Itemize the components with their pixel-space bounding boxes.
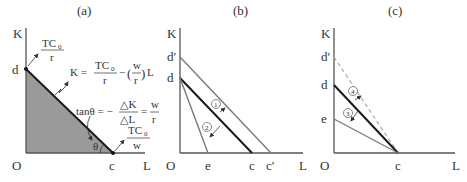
eq-w: w bbox=[133, 59, 141, 71]
point-c-dot bbox=[111, 151, 115, 155]
line-d-prime-c-prime bbox=[180, 57, 271, 153]
panel-c-title: (c) bbox=[388, 3, 402, 18]
point-d-label: d bbox=[321, 77, 328, 92]
arrow-c-icon bbox=[115, 140, 124, 151]
tan-r: r bbox=[152, 113, 156, 125]
marker-2-label: 2 bbox=[205, 124, 209, 132]
zigzag-arrow-icon bbox=[55, 82, 68, 95]
line-d-c bbox=[334, 85, 398, 153]
point-c-label: c bbox=[249, 158, 255, 173]
frac-c-den: w bbox=[133, 139, 141, 151]
panel-b-title: (b) bbox=[233, 3, 248, 18]
point-d-dot bbox=[24, 67, 28, 71]
paren-close: ) bbox=[141, 66, 145, 81]
eq-frac-den: r bbox=[103, 74, 107, 86]
axis-l-label: L bbox=[143, 158, 151, 173]
isocost-diagram: (a) K d O c L TC 0 r K = TC 0 r − ( w r … bbox=[0, 0, 467, 182]
marker-4-label: 4 bbox=[351, 88, 355, 96]
eq-minus: − bbox=[119, 66, 125, 78]
axis-l-label: L bbox=[452, 158, 460, 173]
point-d-label: d bbox=[12, 62, 19, 77]
point-c-prime-label: c′ bbox=[266, 158, 275, 173]
panel-a-title: (a) bbox=[77, 3, 91, 18]
frac-d-num: TC bbox=[42, 37, 56, 49]
frac-c-sub: 0 bbox=[144, 130, 148, 138]
eq-frac-sub: 0 bbox=[111, 65, 115, 73]
axis-k-label: K bbox=[167, 26, 177, 41]
line-d-c bbox=[180, 78, 252, 153]
origin-label: O bbox=[166, 158, 175, 173]
line-e-c bbox=[334, 119, 398, 153]
point-e-label: e bbox=[205, 158, 211, 173]
panel-c: (c) 4 3 K d′ d e O c L bbox=[320, 3, 460, 173]
point-d-label: d bbox=[167, 70, 174, 85]
panel-a: (a) K d O c L TC 0 r K = TC 0 r − ( w r … bbox=[12, 3, 159, 173]
eq-L: L bbox=[147, 66, 154, 78]
point-c-label: c bbox=[109, 158, 115, 173]
paren-open: ( bbox=[127, 66, 131, 81]
tan-num: △K bbox=[120, 98, 136, 110]
point-c-label: c bbox=[395, 158, 401, 173]
arrow-1-icon bbox=[220, 108, 225, 112]
origin-label: O bbox=[320, 158, 329, 173]
arrow-d-icon bbox=[28, 54, 38, 66]
axis-k-label: K bbox=[13, 26, 23, 41]
axis-l-label: L bbox=[299, 158, 307, 173]
frac-c-num: TC bbox=[128, 124, 142, 136]
axis-k-label: K bbox=[321, 26, 331, 41]
frac-d-den: r bbox=[50, 51, 54, 63]
eq-lhs: K = bbox=[70, 66, 87, 78]
line-d-e bbox=[180, 78, 208, 153]
tan-lhs: tanθ = − bbox=[76, 105, 113, 117]
tan-w: w bbox=[151, 98, 159, 110]
panel-b: (b) 1 2 K d′ d O e c c′ L bbox=[166, 3, 307, 173]
tan-eq: = bbox=[141, 105, 147, 117]
marker-1-label: 1 bbox=[214, 101, 218, 109]
origin-label: O bbox=[12, 158, 21, 173]
point-d-prime-label: d′ bbox=[167, 49, 177, 64]
arrow-4-icon bbox=[355, 96, 361, 100]
line-d-prime-c-dashed bbox=[334, 57, 398, 153]
eq-frac-num: TC bbox=[95, 59, 109, 71]
point-d-prime-label: d′ bbox=[321, 49, 331, 64]
marker-3-label: 3 bbox=[346, 110, 350, 118]
theta-label: θ bbox=[93, 140, 98, 152]
eq-r: r bbox=[134, 74, 138, 86]
point-e-label: e bbox=[321, 111, 327, 126]
